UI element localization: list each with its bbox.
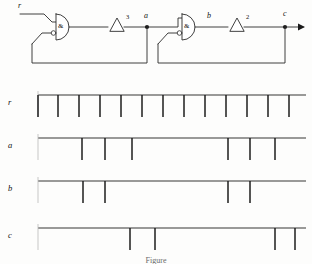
waveform-row-c	[38, 224, 306, 250]
waveform-row-label: r	[8, 98, 11, 107]
figure-container: r a b c & & 3 2 rabc Figure	[0, 0, 312, 264]
timing-diagram	[0, 0, 312, 264]
figure-caption: Figure	[0, 256, 312, 264]
waveform-row-label: a	[8, 141, 12, 150]
waveform-row-a	[38, 134, 306, 160]
waveform-row-label: b	[8, 184, 12, 193]
waveform-row-label: c	[8, 231, 12, 240]
waveform-row-r	[38, 91, 306, 117]
waveform-row-b	[38, 177, 306, 203]
